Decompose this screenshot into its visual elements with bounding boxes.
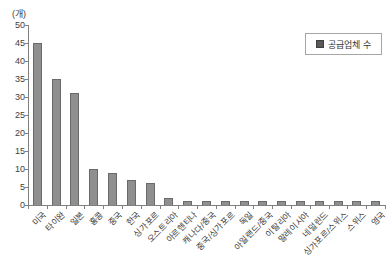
x-tick-label-홍콩: 홍콩	[85, 208, 105, 228]
y-tick-label-40: 40	[3, 57, 25, 66]
y-tick-mark	[25, 25, 28, 26]
bar-중국	[108, 173, 117, 205]
x-tick-mark	[216, 206, 217, 209]
y-axis-line	[28, 25, 29, 206]
x-tick-mark	[178, 206, 179, 209]
y-tick-mark	[25, 151, 28, 152]
bar-영국	[371, 201, 380, 205]
x-tick-mark	[366, 206, 367, 209]
bar-홍콩	[89, 169, 98, 205]
x-tick-mark	[385, 206, 386, 209]
y-tick-label-0: 0	[3, 201, 25, 210]
y-tick-label-35: 35	[3, 75, 25, 84]
bar-싱가포르	[146, 183, 155, 205]
bar-싱가포르/스위스	[334, 201, 343, 205]
x-tick-mark	[329, 206, 330, 209]
x-tick-mark	[122, 206, 123, 209]
x-tick-label-중국: 중국	[104, 208, 124, 228]
legend: 공급업체 수	[305, 33, 382, 55]
y-axis-unit-label: (개)	[12, 7, 26, 20]
x-tick-label-스위스: 스위스	[343, 208, 368, 233]
x-tick-mark	[253, 206, 254, 209]
y-tick-mark	[25, 61, 28, 62]
x-tick-mark	[141, 206, 142, 209]
bar-중국/싱가포르	[221, 201, 230, 205]
x-tick-mark	[197, 206, 198, 209]
x-tick-mark	[28, 206, 29, 209]
supplier-count-bar-chart: (개) 05101520253035404550 미국타이완일본홍콩중국한국싱가…	[0, 0, 392, 272]
legend-label: 공급업체 수	[328, 38, 371, 51]
bar-이탈리아	[277, 201, 286, 205]
y-tick-label-45: 45	[3, 39, 25, 48]
y-tick-mark	[25, 187, 28, 188]
x-tick-mark	[47, 206, 48, 209]
x-tick-mark	[66, 206, 67, 209]
bar-독일	[240, 201, 249, 205]
y-tick-label-30: 30	[3, 93, 25, 102]
x-tick-mark	[84, 206, 85, 209]
x-tick-label-영국: 영국	[367, 208, 387, 228]
bar-아일랜드/중국	[258, 201, 267, 205]
y-tick-label-5: 5	[3, 183, 25, 192]
bar-미국	[33, 43, 42, 205]
x-tick-mark	[310, 206, 311, 209]
y-tick-mark	[25, 169, 28, 170]
bar-오스트리아	[164, 198, 173, 205]
x-tick-label-타이완: 타이완	[42, 208, 67, 233]
bar-캐나다/중국	[202, 201, 211, 205]
bar-스위스	[352, 201, 361, 205]
bar-한국	[127, 180, 136, 205]
x-tick-mark	[291, 206, 292, 209]
y-tick-mark	[25, 43, 28, 44]
x-tick-mark	[272, 206, 273, 209]
y-tick-label-50: 50	[3, 21, 25, 30]
y-tick-mark	[25, 79, 28, 80]
y-tick-label-10: 10	[3, 165, 25, 174]
x-axis-line	[28, 205, 386, 206]
y-tick-mark	[25, 97, 28, 98]
legend-marker-icon	[316, 40, 324, 48]
x-tick-mark	[347, 206, 348, 209]
bar-아르헨티나	[183, 201, 192, 205]
x-tick-mark	[160, 206, 161, 209]
y-tick-label-20: 20	[3, 129, 25, 138]
y-tick-label-25: 25	[3, 111, 25, 120]
x-tick-mark	[103, 206, 104, 209]
bar-네덜란드	[315, 201, 324, 205]
x-tick-mark	[235, 206, 236, 209]
y-tick-label-15: 15	[3, 147, 25, 156]
bar-일본	[70, 93, 79, 205]
x-tick-label-일본: 일본	[67, 208, 87, 228]
bar-타이완	[52, 79, 61, 205]
y-tick-mark	[25, 115, 28, 116]
y-tick-mark	[25, 133, 28, 134]
bar-말레이시아	[296, 201, 305, 205]
